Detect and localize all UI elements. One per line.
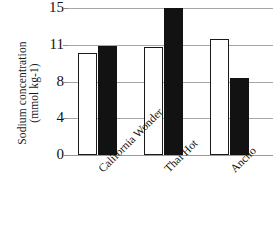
y-tick-label-15: 15: [34, 0, 64, 15]
y-tick-label-8: 8: [34, 74, 64, 89]
bar-ancho-open: [210, 39, 229, 155]
sodium-concentration-bar-chart: Sodium concentration (mmol kg-1) 0481115…: [0, 0, 273, 249]
bar-california-wonder-open: [78, 53, 97, 155]
y-tick-label-4: 4: [34, 110, 64, 125]
y-tick-mark-11: [63, 45, 68, 46]
y-tick-mark-4: [63, 118, 68, 119]
bar-ancho-filled: [230, 78, 249, 155]
bar-thai-hot-open: [144, 47, 163, 155]
plot-area: [68, 8, 273, 155]
y-axis-title-line-1: Sodium concentration: [16, 41, 28, 144]
y-tick-mark-15: [63, 8, 68, 9]
y-tick-label-0: 0: [34, 147, 64, 162]
x-axis-category-labels: California WonderThai HotAncho: [68, 160, 273, 249]
bar-california-wonder-filled: [98, 46, 117, 155]
bar-thai-hot-filled: [164, 8, 183, 155]
y-tick-mark-0: [63, 155, 68, 156]
y-axis-tick-labels: 0481115: [28, 0, 64, 165]
y-tick-label-11: 11: [34, 37, 64, 52]
y-tick-mark-8: [63, 82, 68, 83]
